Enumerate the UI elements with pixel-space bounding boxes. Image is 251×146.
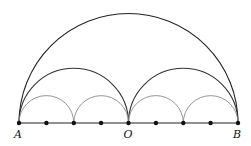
point-marker bbox=[72, 121, 76, 125]
medium-semicircle-arc bbox=[19, 68, 129, 123]
medium-semicircle-arc bbox=[129, 68, 239, 123]
point-b bbox=[236, 121, 240, 125]
small-semicircle-arc bbox=[19, 96, 74, 123]
label-o: O bbox=[124, 128, 133, 141]
point-marker bbox=[44, 121, 48, 125]
small-semicircle-arc bbox=[183, 96, 238, 123]
point-marker bbox=[154, 121, 158, 125]
label-a: A bbox=[13, 128, 22, 141]
small-semicircle-arc bbox=[129, 96, 184, 123]
semicircle-diagram: A O B bbox=[0, 0, 251, 146]
point-a bbox=[17, 121, 21, 125]
point-o bbox=[126, 121, 130, 125]
arcs-group bbox=[19, 14, 238, 123]
point-marker bbox=[99, 121, 103, 125]
point-marker bbox=[181, 121, 185, 125]
label-b: B bbox=[232, 128, 241, 141]
small-semicircle-arc bbox=[74, 96, 129, 123]
point-marker bbox=[208, 121, 212, 125]
large-semicircle-arc bbox=[19, 14, 238, 123]
